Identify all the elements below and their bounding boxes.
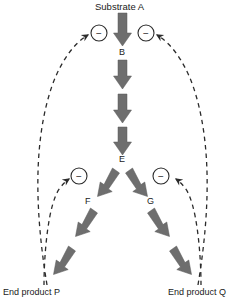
inhibition-sign-g: − bbox=[153, 168, 169, 184]
node-label-b: B bbox=[119, 48, 125, 57]
arrow-g2-to-q bbox=[170, 246, 192, 275]
inhibition-sign-f: − bbox=[71, 168, 87, 184]
inhibition-sign-a-right: − bbox=[138, 25, 154, 41]
node-label-f: F bbox=[85, 197, 91, 206]
minus-icon: − bbox=[143, 28, 149, 39]
arrow-b-to-c bbox=[114, 60, 132, 89]
pathway-diagram: − − − − Substrate A B E F G End product … bbox=[0, 0, 245, 307]
arrow-e-to-f bbox=[98, 168, 120, 197]
arrow-g-to-g2 bbox=[148, 208, 170, 237]
arrow-f2-to-p bbox=[54, 246, 76, 275]
arrow-c-to-d bbox=[114, 94, 132, 123]
arrow-f-to-f2 bbox=[76, 208, 98, 237]
minus-icon: − bbox=[96, 28, 102, 39]
node-label-end-product-p: End product P bbox=[3, 288, 60, 297]
node-label-g: G bbox=[147, 197, 154, 206]
arrow-d-to-e bbox=[114, 127, 132, 155]
arrow-a-to-b bbox=[114, 13, 132, 46]
inhibition-sign-a-left: − bbox=[91, 25, 107, 41]
node-label-substrate-a: Substrate A bbox=[95, 2, 144, 12]
node-label-e: E bbox=[119, 155, 125, 164]
minus-icon: − bbox=[158, 171, 164, 182]
arrow-e-to-g bbox=[126, 168, 148, 197]
node-label-end-product-q: End product Q bbox=[168, 288, 226, 297]
minus-icon: − bbox=[76, 171, 82, 182]
